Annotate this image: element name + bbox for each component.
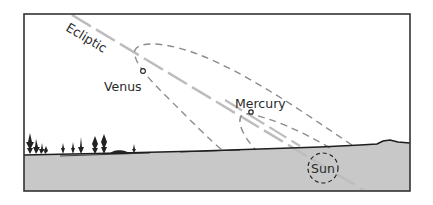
ecliptic-diagram: Sun Venus Mercury Ecliptic — [0, 0, 433, 205]
venus-dot-icon — [141, 69, 146, 74]
venus-label: Venus — [104, 79, 142, 94]
mercury-label: Mercury — [235, 96, 286, 111]
sun-label: Sun — [311, 161, 335, 176]
